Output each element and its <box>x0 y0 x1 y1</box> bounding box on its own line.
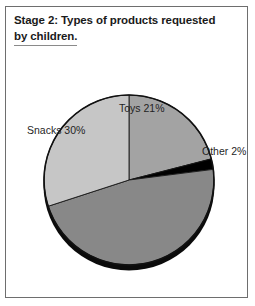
pie-chart: Toys 21% Other 2% Cereal 47% Snacks 30% <box>6 46 247 294</box>
title-line-2: by children. <box>14 28 77 46</box>
title-line-1: Stage 2: Types of products requested <box>14 12 236 28</box>
figure-title: Stage 2: Types of products requested by … <box>14 12 236 46</box>
slice-label-snacks: Snacks 30% <box>27 124 85 136</box>
slice-label-other: Other 2% <box>202 145 246 157</box>
pie-chart-svg <box>6 46 247 294</box>
pie-slice-group <box>44 95 214 265</box>
figure-panel: Stage 2: Types of products requested by … <box>0 0 255 306</box>
slice-label-toys: Toys 21% <box>119 102 165 114</box>
